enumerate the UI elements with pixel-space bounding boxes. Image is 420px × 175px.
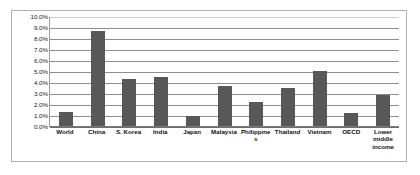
x-axis-label-slot: Philippines bbox=[240, 128, 272, 150]
x-axis-label: OECD bbox=[336, 128, 366, 135]
x-axis-label: S. Korea bbox=[114, 128, 144, 135]
x-axis-label: Thailand bbox=[273, 128, 303, 135]
x-axis-label: China bbox=[82, 128, 112, 135]
y-axis-tick: 7.0% bbox=[14, 47, 48, 53]
bar-slot bbox=[82, 17, 114, 126]
x-axis-label-slot: China bbox=[81, 128, 113, 150]
bar bbox=[91, 31, 105, 126]
y-axis-tick: 3.0% bbox=[14, 91, 48, 97]
x-axis-label: Lower middle income bbox=[368, 128, 398, 150]
x-axis-label-slot: Malaysia bbox=[208, 128, 240, 150]
y-axis-tick: 0.0% bbox=[14, 124, 48, 130]
y-axis-tick-labels: 10.0%9.0%8.0%7.0%6.0%5.0%4.0%3.0%2.0%1.0… bbox=[14, 17, 48, 127]
x-axis-label: World bbox=[50, 128, 80, 135]
bar-slot bbox=[336, 17, 368, 126]
x-axis-label-slot: Japan bbox=[176, 128, 208, 150]
bar bbox=[249, 102, 263, 126]
x-axis-label: Philippines bbox=[241, 128, 271, 143]
x-axis-label-slot: India bbox=[144, 128, 176, 150]
bar bbox=[154, 77, 168, 127]
bar bbox=[376, 95, 390, 126]
bar bbox=[59, 112, 73, 126]
bar bbox=[344, 113, 358, 126]
x-axis-label-slot: Thailand bbox=[272, 128, 304, 150]
bar-series bbox=[50, 17, 399, 126]
y-axis-tick: 8.0% bbox=[14, 36, 48, 42]
x-axis-label-slot: Lower middle income bbox=[367, 128, 399, 150]
bar-slot bbox=[145, 17, 177, 126]
bar-slot bbox=[304, 17, 336, 126]
plot-area bbox=[49, 17, 399, 127]
x-axis-label: Malaysia bbox=[209, 128, 239, 135]
bar bbox=[186, 116, 200, 126]
x-axis-label-slot: S. Korea bbox=[113, 128, 145, 150]
bar bbox=[218, 86, 232, 126]
y-axis-tick: 2.0% bbox=[14, 102, 48, 108]
x-axis-category-labels: WorldChinaS. KoreaIndiaJapanMalaysiaPhil… bbox=[49, 128, 399, 150]
bar-slot bbox=[209, 17, 241, 126]
y-axis-tick: 6.0% bbox=[14, 58, 48, 64]
bar-slot bbox=[367, 17, 399, 126]
bar-slot bbox=[113, 17, 145, 126]
y-axis-tick: 10.0% bbox=[14, 14, 48, 20]
bar bbox=[122, 79, 136, 126]
y-axis-tick: 5.0% bbox=[14, 69, 48, 75]
chart-body: 10.0%9.0%8.0%7.0%6.0%5.0%4.0%3.0%2.0%1.0… bbox=[12, 11, 406, 161]
chart-frame: 10.0%9.0%8.0%7.0%6.0%5.0%4.0%3.0%2.0%1.0… bbox=[11, 10, 407, 162]
x-axis-label: Vietnam bbox=[305, 128, 335, 135]
bar-slot bbox=[177, 17, 209, 126]
y-axis-tick: 4.0% bbox=[14, 80, 48, 86]
y-axis-tick: 1.0% bbox=[14, 113, 48, 119]
bar bbox=[313, 71, 327, 126]
bar-slot bbox=[272, 17, 304, 126]
bar-slot bbox=[50, 17, 82, 126]
y-axis-tick: 9.0% bbox=[14, 25, 48, 31]
x-axis-label-slot: OECD bbox=[335, 128, 367, 150]
x-axis-label: India bbox=[145, 128, 175, 135]
bar bbox=[281, 88, 295, 127]
x-axis-label-slot: World bbox=[49, 128, 81, 150]
x-axis-label-slot: Vietnam bbox=[304, 128, 336, 150]
x-axis-label: Japan bbox=[177, 128, 207, 135]
bar-slot bbox=[240, 17, 272, 126]
